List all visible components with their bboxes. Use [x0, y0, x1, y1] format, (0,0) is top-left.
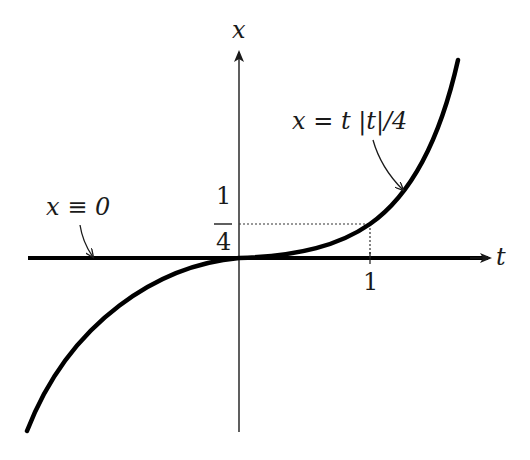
curve-label-arrow — [373, 140, 403, 190]
zero-label-arrow — [80, 225, 93, 257]
x-tick-denominator: 4 — [216, 228, 231, 256]
horizontal-axis-label: t — [496, 243, 506, 271]
vertical-axis-label: x — [232, 16, 246, 44]
curve-label: x = t |t|/4 — [292, 107, 407, 136]
zero-label: x ≡ 0 — [46, 193, 110, 221]
solution-curves-diagram: x t 1 1 4 x = t |t|/4 x ≡ 0 — [0, 0, 530, 460]
x-tick-numerator: 1 — [216, 182, 231, 210]
t-tick-label: 1 — [363, 268, 378, 296]
